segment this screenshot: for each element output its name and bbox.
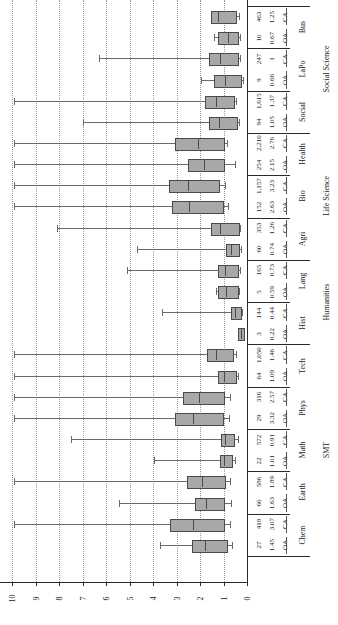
boxplot-row[interactable]	[0, 48, 248, 69]
whisker-cap-low	[14, 140, 15, 147]
boxplot-row[interactable]	[0, 133, 248, 154]
whisker-cap-high	[239, 288, 240, 295]
group-label-life-science: Life Science	[317, 165, 337, 227]
boxplot-row[interactable]	[0, 302, 248, 323]
whisker-cap-high	[240, 267, 241, 274]
median-line	[193, 519, 194, 530]
median-line	[225, 75, 226, 86]
boxplot-row[interactable]	[0, 69, 248, 90]
axis-tick-label-10: 10	[8, 589, 17, 609]
group-rule	[248, 133, 310, 134]
whisker-cap-low	[160, 542, 161, 549]
boxplot-row[interactable]	[0, 344, 248, 365]
box-iqr	[170, 519, 226, 532]
box-iqr	[172, 201, 225, 214]
discipline-label-Agri: Agri	[293, 220, 313, 258]
whisker-cap-high	[225, 182, 226, 189]
discipline-rule	[248, 218, 290, 219]
discipline-rule	[248, 429, 290, 430]
median-line	[216, 349, 217, 360]
whisker-cap-low	[214, 34, 215, 41]
median-line	[216, 96, 217, 107]
box-iqr	[218, 265, 239, 278]
whisker-cap-low	[127, 267, 128, 274]
boxplot-row[interactable]	[0, 218, 248, 239]
boxplot-row[interactable]	[0, 514, 248, 535]
median-line	[220, 53, 221, 64]
discipline-rule	[248, 514, 290, 515]
whisker-cap-high	[240, 34, 241, 41]
median-line	[193, 413, 194, 424]
median-line	[224, 455, 225, 466]
boxplot-row[interactable]	[0, 387, 248, 408]
whisker-cap-high	[238, 373, 239, 380]
group-rule	[248, 556, 310, 557]
boxplot-row[interactable]	[0, 450, 248, 471]
box-iqr	[226, 244, 239, 257]
cell-divider	[286, 537, 287, 554]
whisker-cap-high	[240, 225, 241, 232]
boxplot-row[interactable]	[0, 260, 248, 281]
axis-tick-label-1: 1	[219, 589, 228, 609]
boxplot-row[interactable]	[0, 535, 248, 556]
axis-tick-label-3: 3	[172, 589, 181, 609]
boxplot-row[interactable]	[0, 471, 248, 492]
whisker-cap-high	[240, 55, 241, 62]
x-axis-line	[0, 582, 248, 583]
whisker-cap-high	[239, 13, 240, 20]
discipline-label-LaPo: LaPo	[293, 50, 313, 88]
axis-tick-label-5: 5	[125, 589, 134, 609]
median-line	[220, 223, 221, 234]
boxplot-row[interactable]	[0, 323, 248, 344]
box-iqr	[192, 540, 229, 553]
boxplot-row[interactable]	[0, 492, 248, 513]
whisker-cap-low	[216, 288, 217, 295]
whisker-cap-low	[137, 246, 138, 253]
median-line	[205, 540, 206, 551]
axis-tick-label-6: 6	[102, 589, 111, 609]
whisker-cap-low	[14, 98, 15, 105]
boxplot-row[interactable]	[0, 429, 248, 450]
boxplot-row[interactable]	[0, 281, 248, 302]
plot-area: 012345678910	[0, 0, 248, 580]
box-iqr	[209, 117, 238, 130]
whisker-cap-high	[230, 521, 231, 528]
boxplot-row[interactable]	[0, 154, 248, 175]
discipline-label-Lang: Lang	[293, 262, 313, 300]
boxplot-row[interactable]	[0, 91, 248, 112]
boxplot-row[interactable]	[0, 175, 248, 196]
axis-tick-label-0: 0	[243, 589, 252, 609]
boxplot-row[interactable]	[0, 239, 248, 260]
median-line	[219, 117, 220, 128]
discipline-label-Social: Social	[293, 93, 313, 131]
box-iqr	[209, 53, 239, 66]
discipline-label-Health: Health	[293, 135, 313, 173]
whisker-cap-high	[243, 77, 244, 84]
boxplot-row[interactable]	[0, 196, 248, 217]
median-line	[199, 392, 200, 403]
box-iqr	[221, 434, 235, 447]
boxplot-row[interactable]	[0, 27, 248, 48]
discipline-rule	[248, 48, 290, 49]
whisker-cap-high	[235, 161, 236, 168]
boxplot-row[interactable]	[0, 6, 248, 27]
boxplot-row[interactable]	[0, 366, 248, 387]
median-line	[235, 307, 236, 318]
whisker-cap-high	[235, 457, 236, 464]
group-label-humanities: Humanities	[317, 271, 337, 333]
whisker-cap-high	[230, 394, 231, 401]
group-label-smt: SMT	[317, 419, 337, 481]
boxplot-row[interactable]	[0, 408, 248, 429]
whisker-cap-low	[14, 478, 15, 485]
box-iqr	[214, 75, 242, 88]
median-line	[218, 11, 219, 22]
median-line	[198, 138, 199, 149]
boxplot-row[interactable]	[0, 112, 248, 133]
discipline-label-Hist: Hist	[293, 304, 313, 342]
discipline-rule	[248, 175, 290, 176]
axis-tick-label-4: 4	[149, 589, 158, 609]
whisker-line	[14, 101, 236, 102]
whisker-cap-low	[162, 309, 163, 316]
whisker-cap-low	[154, 457, 155, 464]
discipline-label-Bio: Bio	[293, 177, 313, 215]
